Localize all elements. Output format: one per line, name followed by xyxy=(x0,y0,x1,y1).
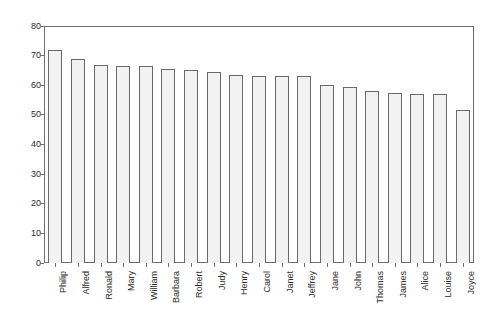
x-axis-tick-label: Alice xyxy=(421,271,430,291)
y-axis: 01020304050607080 xyxy=(0,0,44,324)
bar[interactable] xyxy=(139,66,153,263)
bar-slot xyxy=(94,26,108,263)
bar[interactable] xyxy=(297,76,311,263)
bar-slot xyxy=(456,26,470,263)
bar-slot xyxy=(71,26,85,263)
bar-slot xyxy=(252,26,266,263)
bar-slot xyxy=(184,26,198,263)
x-axis-tick-label: Carol xyxy=(263,271,272,293)
x-axis-tick-mark xyxy=(350,263,351,267)
x-axis-tick-label: Mary xyxy=(127,271,136,291)
bar[interactable] xyxy=(252,76,266,263)
x-axis-tick-label: Philip xyxy=(59,271,68,293)
bar[interactable] xyxy=(48,50,62,263)
bar-chart: 01020304050607080 PhilipAlfredRonaldMary… xyxy=(0,0,500,324)
bar[interactable] xyxy=(94,65,108,263)
x-axis-tick-mark xyxy=(146,263,147,267)
bar[interactable] xyxy=(275,76,289,263)
x-axis-tick-label: Judy xyxy=(218,271,227,290)
x-axis-tick-mark xyxy=(214,263,215,267)
x-axis-tick-mark xyxy=(101,263,102,267)
x-axis-tick-label: Thomas xyxy=(376,271,385,304)
x-axis-tick-mark xyxy=(395,263,396,267)
bar-slot xyxy=(48,26,62,263)
x-axis-tick-label: Jane xyxy=(331,271,340,291)
x-axis-tick-label: Joyce xyxy=(467,271,476,295)
x-axis-tick-mark xyxy=(236,263,237,267)
x-axis-tick-mark xyxy=(304,263,305,267)
bar[interactable] xyxy=(116,66,130,263)
x-axis: PhilipAlfredRonaldMaryWilliamBarbaraRobe… xyxy=(44,263,474,324)
x-axis-tick-mark xyxy=(168,263,169,267)
x-axis-tick-label: Ronald xyxy=(105,271,114,300)
bar-slot xyxy=(365,26,379,263)
x-axis-tick-label: Jeffrey xyxy=(308,271,317,298)
bar[interactable] xyxy=(207,72,221,263)
x-axis-tick-mark xyxy=(440,263,441,267)
bar-slot xyxy=(161,26,175,263)
bar[interactable] xyxy=(71,59,85,263)
bar-slot xyxy=(343,26,357,263)
bar-slot xyxy=(297,26,311,263)
bar-slot xyxy=(320,26,334,263)
x-axis-tick-mark xyxy=(78,263,79,267)
bars-layer xyxy=(44,26,474,263)
x-axis-tick-label: Janet xyxy=(286,271,295,293)
bar-slot xyxy=(229,26,243,263)
x-axis-tick-label: Robert xyxy=(195,271,204,298)
x-axis-tick-label: James xyxy=(399,271,408,298)
x-axis-tick-mark xyxy=(463,263,464,267)
bar[interactable] xyxy=(161,69,175,263)
x-axis-tick-mark xyxy=(123,263,124,267)
bar[interactable] xyxy=(184,70,198,263)
bar[interactable] xyxy=(410,94,424,263)
x-axis-tick-mark xyxy=(417,263,418,267)
bar-slot xyxy=(410,26,424,263)
bar-slot xyxy=(139,26,153,263)
x-axis-tick-mark xyxy=(259,263,260,267)
x-axis-tick-label: William xyxy=(150,271,159,300)
bar[interactable] xyxy=(229,75,243,263)
x-axis-tick-label: Henry xyxy=(240,271,249,295)
x-axis-tick-label: Louise xyxy=(444,271,453,298)
x-axis-tick-label: Barbara xyxy=(172,271,181,303)
bar[interactable] xyxy=(365,91,379,263)
bar-slot xyxy=(388,26,402,263)
x-axis-tick-label: John xyxy=(354,271,363,291)
x-axis-tick-label: Alfred xyxy=(82,271,91,295)
bar[interactable] xyxy=(388,93,402,263)
bar[interactable] xyxy=(433,94,447,263)
x-axis-tick-mark xyxy=(191,263,192,267)
bar[interactable] xyxy=(320,85,334,263)
bar[interactable] xyxy=(456,110,470,263)
x-axis-tick-mark xyxy=(55,263,56,267)
bar-slot xyxy=(116,26,130,263)
bar-slot xyxy=(275,26,289,263)
bar-slot xyxy=(433,26,447,263)
bar-slot xyxy=(207,26,221,263)
x-axis-tick-mark xyxy=(372,263,373,267)
x-axis-tick-mark xyxy=(282,263,283,267)
bar[interactable] xyxy=(343,87,357,263)
x-axis-tick-mark xyxy=(327,263,328,267)
